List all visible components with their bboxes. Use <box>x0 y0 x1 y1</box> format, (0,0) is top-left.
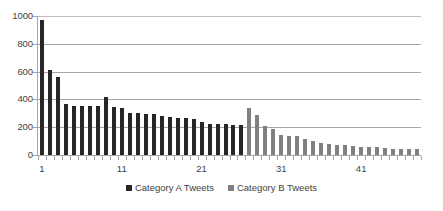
x-axis-tick <box>261 156 262 160</box>
x-axis-tick <box>86 156 87 160</box>
x-axis-tick <box>381 156 382 160</box>
y-axis-label-600: 600 <box>0 67 33 77</box>
bar <box>407 149 411 155</box>
y-axis-label-400: 400 <box>0 94 33 104</box>
bar <box>367 147 371 155</box>
x-axis-tick <box>349 156 350 160</box>
x-axis-tick <box>301 156 302 160</box>
bar <box>48 70 52 155</box>
bar <box>96 106 100 155</box>
bar <box>200 122 204 155</box>
x-axis-tick <box>54 156 55 160</box>
x-axis-tick <box>94 156 95 160</box>
legend-swatch-icon <box>228 185 234 191</box>
x-axis-tick <box>182 156 183 160</box>
x-axis-tick <box>405 156 406 160</box>
y-axis-label-200: 200 <box>0 122 33 132</box>
x-axis-tick <box>206 156 207 160</box>
bar <box>359 147 363 155</box>
bar <box>168 117 172 155</box>
x-axis-tick <box>285 156 286 160</box>
x-axis-tick <box>158 156 159 160</box>
bar <box>80 106 84 155</box>
legend-swatch-icon <box>126 185 132 191</box>
legend-item-category-b[interactable]: Category B Tweets <box>228 182 317 194</box>
bar <box>287 136 291 155</box>
x-axis-tick <box>174 156 175 160</box>
y-axis-label-0: 0 <box>0 150 33 160</box>
bar <box>120 108 124 155</box>
bar <box>351 146 355 155</box>
bar <box>56 77 60 155</box>
x-axis-tick <box>237 156 238 160</box>
bar <box>399 149 403 155</box>
x-axis-tick <box>134 156 135 160</box>
x-axis-label-21: 21 <box>191 163 213 175</box>
x-axis-tick <box>46 156 47 160</box>
x-axis-tick <box>341 156 342 160</box>
y-axis-label-800: 800 <box>0 39 33 49</box>
x-axis-tick <box>269 156 270 160</box>
x-axis-tick <box>365 156 366 160</box>
x-axis-tick <box>222 156 223 160</box>
x-axis-label-41: 41 <box>350 163 372 175</box>
x-axis-tick <box>317 156 318 160</box>
bar <box>319 143 323 155</box>
bar <box>327 144 331 155</box>
bar <box>104 97 108 155</box>
bar <box>208 124 212 155</box>
bar <box>295 136 299 155</box>
bar-chart: 02004006008001000 111213141 Category A T… <box>0 0 443 211</box>
bar <box>375 147 379 155</box>
bar <box>192 119 196 155</box>
x-axis-labels: 111213141 <box>0 163 443 177</box>
bar <box>383 148 387 155</box>
x-axis-tick <box>62 156 63 160</box>
bar <box>343 145 347 155</box>
bar <box>415 149 419 155</box>
y-axis-label-1000: 1000 <box>0 11 33 21</box>
x-axis-tick <box>142 156 143 160</box>
bar <box>239 125 243 155</box>
bar <box>176 118 180 155</box>
bar <box>40 20 44 155</box>
x-axis-tick <box>102 156 103 160</box>
x-axis-tick <box>166 156 167 160</box>
x-axis-tick <box>190 156 191 160</box>
bar <box>271 129 275 155</box>
legend-label: Category A Tweets <box>135 182 214 194</box>
x-axis-tick <box>38 156 39 160</box>
x-axis-tick <box>126 156 127 160</box>
bar <box>72 106 76 155</box>
x-axis-tick <box>277 156 278 160</box>
x-axis-tick <box>293 156 294 160</box>
bar-series-container <box>38 16 421 155</box>
x-axis-label-11: 11 <box>111 163 133 175</box>
x-axis-tick <box>214 156 215 160</box>
x-axis-tick <box>309 156 310 160</box>
x-axis-tick <box>397 156 398 160</box>
bar <box>152 114 156 155</box>
bar <box>263 126 267 155</box>
x-axis-label-31: 31 <box>270 163 292 175</box>
x-axis-tick <box>325 156 326 160</box>
x-axis-tick <box>413 156 414 160</box>
x-axis-tick <box>389 156 390 160</box>
bar <box>311 141 315 155</box>
x-axis-tick <box>357 156 358 160</box>
bar <box>128 113 132 155</box>
bar <box>247 108 251 155</box>
bar <box>335 145 339 155</box>
legend-label: Category B Tweets <box>237 182 317 194</box>
bar <box>136 113 140 155</box>
bar <box>88 106 92 155</box>
x-axis-tick <box>150 156 151 160</box>
x-axis-tick <box>333 156 334 160</box>
legend-item-category-a[interactable]: Category A Tweets <box>126 182 214 194</box>
bar <box>224 124 228 155</box>
bar <box>279 135 283 155</box>
bar <box>391 149 395 155</box>
bar <box>160 116 164 155</box>
x-axis-tick <box>70 156 71 160</box>
bar <box>231 125 235 155</box>
